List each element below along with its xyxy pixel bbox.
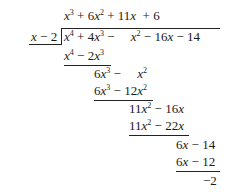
op: + <box>77 8 84 23</box>
op: − <box>144 29 151 44</box>
op: − <box>40 29 47 44</box>
var: x <box>167 29 173 44</box>
op: − <box>192 137 199 152</box>
coef: 16 <box>165 101 178 116</box>
exponent: 4 <box>70 29 74 38</box>
step-subtract-3: 11x2 − 22x <box>129 119 184 133</box>
divisor: x − 2 <box>31 30 57 44</box>
op: − <box>114 66 121 81</box>
op: + <box>107 8 114 23</box>
op: + <box>143 8 150 23</box>
var: x <box>31 29 37 44</box>
exponent: 2 <box>147 101 151 110</box>
subtract-line-4 <box>176 171 220 172</box>
op: − <box>77 48 84 63</box>
op: − <box>176 29 183 44</box>
exponent: 3 <box>106 66 110 75</box>
op: − <box>155 101 162 116</box>
step-subtract-2: 6x3 − 12x2 <box>94 84 147 98</box>
exponent: 2 <box>143 66 147 75</box>
exponent: 3 <box>106 83 110 92</box>
exponent: 3 <box>100 48 104 57</box>
const: 2 <box>51 29 58 44</box>
remainder: −2 <box>203 174 217 188</box>
exponent: 3 <box>100 29 104 38</box>
exponent: 4 <box>70 48 74 57</box>
exponent: 3 <box>70 8 74 17</box>
division-bracket <box>61 28 62 45</box>
step-remainder-1: 6x3 − x2 <box>94 67 147 81</box>
coef: 11 <box>129 118 142 133</box>
op: − <box>192 154 199 169</box>
var: x <box>183 154 189 169</box>
const: 14 <box>187 29 200 44</box>
exponent: 2 <box>147 118 151 127</box>
const: 12 <box>202 154 215 169</box>
exponent: 2 <box>100 8 104 17</box>
coef: 12 <box>124 83 137 98</box>
coef: 22 <box>165 118 178 133</box>
op: − <box>107 29 114 44</box>
divisor-underline <box>29 44 62 45</box>
exponent: 2 <box>143 83 147 92</box>
coef: 6 <box>153 8 160 23</box>
coef: 16 <box>154 29 167 44</box>
coef: 11 <box>129 101 142 116</box>
exponent: 2 <box>137 29 141 38</box>
const: 14 <box>202 137 215 152</box>
var: x <box>183 137 189 152</box>
op: − <box>114 83 121 98</box>
step-remainder-2: 11x2 − 16x <box>129 102 184 116</box>
op: − <box>155 118 162 133</box>
step-subtract-1: x4 − 2x3 <box>64 49 104 63</box>
var: x <box>178 118 184 133</box>
step-subtract-4: 6x − 12 <box>176 155 215 169</box>
step-remainder-3: 6x − 14 <box>176 138 215 152</box>
var: x <box>178 101 184 116</box>
subtract-line-3 <box>129 135 189 136</box>
op: + <box>77 29 84 44</box>
var: x <box>130 8 136 23</box>
coef: 11 <box>118 8 131 23</box>
quotient: x3 + 6x2 + 11x + 6 <box>64 9 160 23</box>
dividend: x4 + 4x3 − x2 − 16x − 14 <box>64 30 200 44</box>
